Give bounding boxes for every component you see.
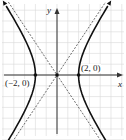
vertex-point <box>55 73 59 77</box>
branch-arrow-icon <box>107 0 111 5</box>
vertex-left-label: (−2, 0) <box>5 79 30 88</box>
y-axis-arrow-icon <box>55 8 60 14</box>
vertex-point <box>34 73 38 77</box>
y-axis-label: y <box>47 6 51 15</box>
branch-arrow-icon <box>3 0 7 5</box>
x-axis-label: x <box>118 80 122 89</box>
hyperbola-graph <box>0 0 126 140</box>
vertex-point <box>77 73 81 77</box>
vertex-right-label: (2, 0) <box>81 64 101 73</box>
